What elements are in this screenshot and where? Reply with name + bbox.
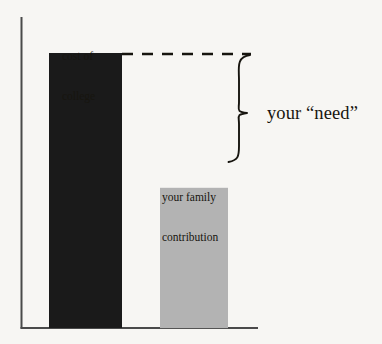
financial-aid-need-diagram: cost of college your family contribution… [0,0,382,344]
need-label: your “need” [267,103,358,124]
family-contribution-label-line1: your family [162,191,218,204]
family-contribution-label: your family contribution [162,164,218,271]
cost-of-college-label: cost of college [62,23,95,130]
cost-of-college-label-line1: cost of [62,50,95,63]
cost-of-college-label-line2: college [62,90,95,103]
family-contribution-label-line2: contribution [162,231,218,244]
